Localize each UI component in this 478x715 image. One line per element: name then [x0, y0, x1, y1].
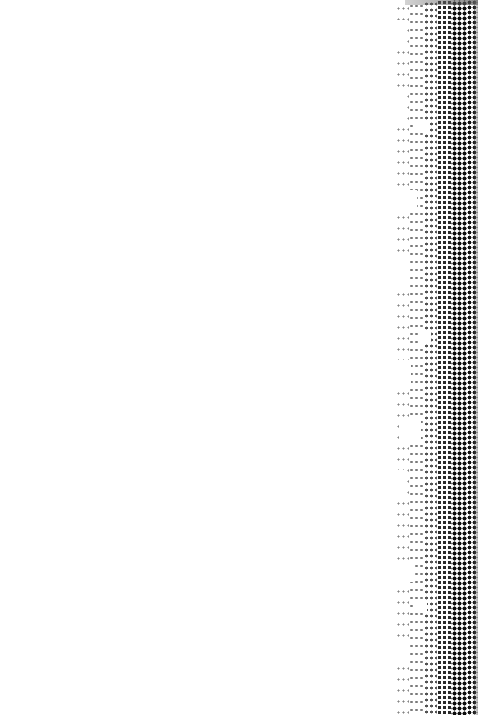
gap: [395, 260, 409, 290]
halftone-dot-strip: [395, 0, 478, 715]
dot-band-densest: [451, 0, 467, 715]
gap: [395, 20, 405, 50]
gap: [415, 120, 429, 132]
gap: [395, 360, 411, 385]
gap: [395, 640, 409, 665]
gap: [397, 190, 417, 208]
gap: [395, 470, 407, 500]
halftone-canvas: [0, 0, 478, 715]
gap: [399, 420, 421, 440]
gap: [395, 560, 413, 582]
gap: [413, 600, 427, 612]
blank-white-area: [0, 0, 395, 715]
dot-band-dense: [437, 0, 451, 715]
gap: [419, 330, 431, 344]
top-shade: [405, 0, 478, 5]
gap: [395, 95, 407, 120]
right-edge-shade: [472, 0, 478, 715]
